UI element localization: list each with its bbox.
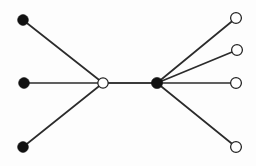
- graph-diagram: [0, 0, 256, 166]
- graph-node-r1-open-leaf: [231, 13, 242, 24]
- graph-figure-canvas: [0, 0, 256, 166]
- graph-node-l1-filled-leaf: [18, 15, 29, 26]
- graph-node-l3-filled-leaf: [18, 142, 29, 153]
- graph-node-r4-open-leaf: [231, 142, 242, 153]
- graph-node-hl-open-hub: [98, 78, 108, 88]
- graph-node-l2-filled-leaf: [19, 78, 30, 89]
- graph-node-hr-filled-hub: [151, 77, 162, 88]
- graph-node-r3-open-leaf: [231, 78, 242, 89]
- graph-node-r2-open-leaf: [232, 45, 243, 56]
